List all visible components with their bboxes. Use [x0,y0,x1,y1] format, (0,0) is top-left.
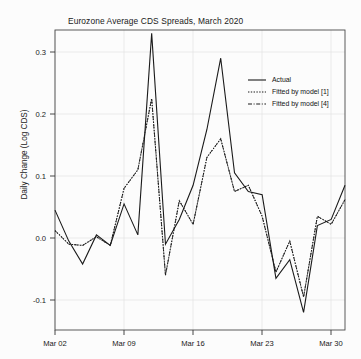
x-tick-label: Mar 30 [309,339,353,348]
y-tick-label: -0.1 [20,296,46,305]
x-axis-ticks [55,330,331,335]
chart-figure: Eurozone Average CDS Spreads, March 2020… [0,0,361,359]
y-tick-label: 0.1 [20,172,46,181]
y-axis-ticks [50,52,55,300]
y-tick-label: 0.3 [20,48,46,57]
legend-item-fitted-model-1: Fitted by model [1] [247,86,329,98]
series-line-fitted-model-4 [55,99,345,297]
plot-area [0,0,361,359]
legend-item-fitted-model-4: Fitted by model [4] [247,98,329,110]
legend-label: Actual [272,76,291,84]
legend-item-actual: Actual [247,74,329,86]
legend-swatch-dotted-icon [247,88,267,96]
legend-label: Fitted by model [4] [272,100,329,108]
chart-legend: Actual Fitted by model [1] Fitted by mod… [247,74,329,110]
y-tick-label: 0.2 [20,110,46,119]
legend-label: Fitted by model [1] [272,88,329,96]
x-tick-label: Mar 23 [240,339,284,348]
x-tick-label: Mar 16 [171,339,215,348]
x-tick-label: Mar 02 [33,339,77,348]
x-tick-label: Mar 09 [102,339,146,348]
legend-swatch-dashdot-icon [247,100,267,108]
series-line-fitted-model-1 [55,99,345,297]
legend-swatch-solid-icon [247,76,267,84]
y-tick-label: 0.0 [20,234,46,243]
